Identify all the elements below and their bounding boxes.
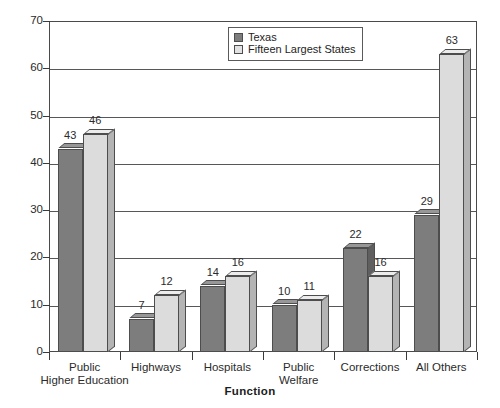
legend-item: Fifteen Largest States (234, 44, 356, 55)
legend-label: Texas (248, 32, 277, 43)
bar-front-face (154, 295, 179, 352)
legend-label: Fifteen Largest States (248, 44, 356, 55)
bar-side-face (464, 49, 471, 352)
gridline (50, 117, 476, 118)
legend: TexasFifteen Largest States (228, 27, 363, 61)
x-axis-tick-mark (477, 352, 478, 360)
legend-swatch-icon (234, 45, 243, 54)
x-axis-tick-mark (192, 352, 193, 360)
y-axis-tick-mark (43, 163, 50, 164)
bar-value-label: 12 (148, 276, 185, 287)
y-axis-tick-label: 70 (9, 15, 43, 26)
bar-fifteen-largest-states (368, 276, 393, 352)
x-axis-category-label: All Others (394, 361, 489, 374)
bar-side-face (393, 271, 400, 352)
bar-texas (58, 149, 83, 352)
y-axis-tick-mark (43, 257, 50, 258)
y-axis-tick-label: 10 (9, 299, 43, 310)
bar-value-label: 11 (291, 281, 328, 292)
bar-front-face (83, 134, 108, 352)
bar-value-label: 22 (337, 229, 374, 240)
gridline (50, 69, 476, 70)
bar-front-face (439, 54, 464, 352)
bar-fifteen-largest-states (439, 54, 464, 352)
bar-side-face (322, 295, 329, 352)
bar-fifteen-largest-states (225, 276, 250, 352)
bar-front-face (225, 276, 250, 352)
bar-chart: 010203040506070 TexasFifteen Largest Sta… (0, 0, 500, 408)
bar-front-face (297, 300, 322, 352)
bar-front-face (368, 276, 393, 352)
y-axis-tick-label: 30 (9, 204, 43, 215)
y-axis: 010203040506070 (5, 21, 43, 352)
x-axis-tick-mark (263, 352, 264, 360)
legend-item: Texas (234, 32, 356, 43)
y-axis-tick-label: 50 (9, 110, 43, 121)
y-axis-tick-mark (43, 210, 50, 211)
legend-swatch-icon (234, 33, 243, 42)
bar-side-face (108, 129, 115, 352)
bar-value-label: 16 (219, 257, 256, 268)
bar-value-label: 16 (362, 257, 399, 268)
x-axis-tick-mark (120, 352, 121, 360)
bar-front-face (414, 215, 439, 352)
y-axis-tick-label: 20 (9, 251, 43, 262)
x-axis-tick-mark (49, 352, 50, 360)
bar-texas (200, 286, 225, 352)
bar-texas (414, 215, 439, 352)
x-axis-tick-mark (334, 352, 335, 360)
bar-front-face (129, 319, 154, 352)
y-axis-tick-label: 60 (9, 62, 43, 73)
bar-side-face (250, 271, 257, 352)
y-axis-tick-mark (43, 21, 50, 22)
bar-fifteen-largest-states (154, 295, 179, 352)
bar-side-face (179, 290, 186, 352)
bar-front-face (58, 149, 83, 352)
bar-front-face (200, 286, 225, 352)
bar-value-label: 63 (433, 35, 470, 46)
y-axis-tick-mark (43, 68, 50, 69)
y-axis-tick-mark (43, 305, 50, 306)
x-axis-tick-mark (406, 352, 407, 360)
bar-texas (272, 305, 297, 352)
y-axis-tick-mark (43, 116, 50, 117)
x-axis-title: Function (0, 385, 500, 397)
bar-fifteen-largest-states (297, 300, 322, 352)
bar-value-label: 46 (77, 115, 114, 126)
bar-front-face (272, 305, 297, 352)
y-axis-tick-label: 0 (9, 346, 43, 357)
y-axis-tick-label: 40 (9, 157, 43, 168)
bar-fifteen-largest-states (83, 134, 108, 352)
bar-texas (129, 319, 154, 352)
